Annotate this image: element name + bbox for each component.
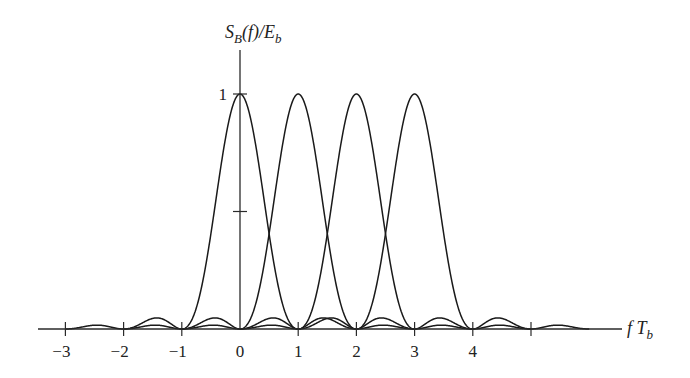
x-tick-label: 4 [469, 342, 478, 361]
series-curve-1 [124, 94, 473, 329]
x-tick-label: −2 [111, 342, 129, 361]
x-tick-label: 2 [352, 342, 361, 361]
curves [65, 94, 589, 329]
y-tick-label: 1 [219, 85, 228, 104]
x-tick-label: 0 [236, 342, 245, 361]
x-axis-label: f Tb [627, 318, 654, 342]
x-tick-label: −3 [52, 342, 70, 361]
chart: −3−2−101234 1 SB(f)/Eb f Tb [0, 0, 690, 378]
x-tick-label: −1 [169, 342, 187, 361]
x-tick-label: 1 [294, 342, 303, 361]
y-axis-label: SB(f)/Eb [225, 22, 282, 46]
x-tick-label: 3 [410, 342, 419, 361]
series-curve-3 [240, 94, 589, 329]
